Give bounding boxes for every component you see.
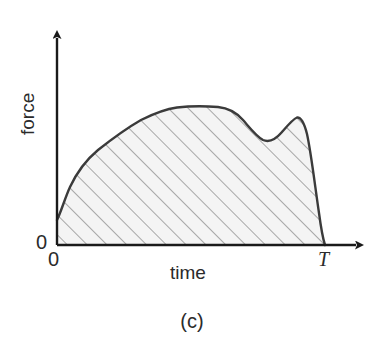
figure-caption: (c) (0, 310, 384, 333)
x-axis-label: time (170, 263, 206, 282)
chart-canvas (0, 0, 384, 352)
y-axis-label: force (18, 93, 37, 135)
x-axis-origin-tick-label: 0 (48, 249, 59, 269)
x-axis-end-tick-label: T (318, 249, 329, 269)
force-time-impulse-figure: force time 0 0 T (c) (0, 0, 384, 352)
y-axis-origin-tick-label: 0 (36, 232, 47, 252)
